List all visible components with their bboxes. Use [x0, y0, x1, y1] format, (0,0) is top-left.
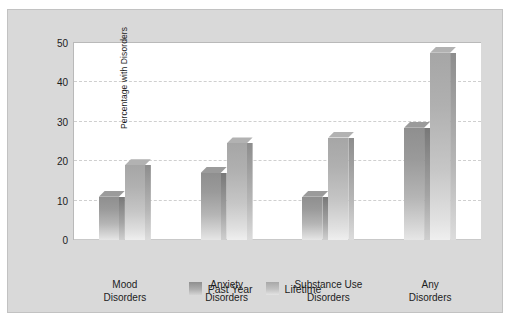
- y-tick-label: 10: [57, 195, 68, 206]
- bar-group: [302, 43, 354, 240]
- chart-figure-frame: 01020304050 MoodDisordersAnxietyDisorder…: [7, 9, 503, 313]
- bar-face: [328, 138, 348, 240]
- legend-label-past-year: Past Year: [208, 283, 253, 295]
- bar-side: [450, 53, 456, 240]
- bar-face: [227, 143, 247, 240]
- y-tick-label: 20: [57, 156, 68, 167]
- bar-past-year[interactable]: [99, 197, 119, 240]
- y-tick-label: 0: [62, 235, 68, 246]
- bar-face: [404, 128, 424, 240]
- bar-side: [145, 165, 151, 240]
- bar-lifetime[interactable]: [328, 138, 348, 240]
- bar-face: [99, 197, 119, 240]
- bar-past-year[interactable]: [302, 197, 322, 240]
- bar-face: [125, 165, 145, 240]
- legend-item-past-year[interactable]: Past Year: [189, 282, 253, 295]
- bar-lifetime[interactable]: [430, 53, 450, 240]
- bar-past-year[interactable]: [404, 128, 424, 240]
- bar-lifetime[interactable]: [125, 165, 145, 240]
- legend-label-lifetime: Lifetime: [285, 283, 322, 295]
- bar-face: [302, 197, 322, 240]
- y-axis-title: Percentage with Disorders: [119, 0, 129, 171]
- bar-face: [430, 53, 450, 240]
- lifetime-swatch-icon: [266, 282, 279, 295]
- bar-group: [404, 43, 456, 240]
- past-year-swatch-icon: [189, 282, 202, 295]
- chart-legend: Past Year Lifetime: [8, 282, 502, 295]
- y-tick-label: 40: [57, 77, 68, 88]
- bar-past-year[interactable]: [201, 173, 221, 240]
- y-tick-label: 50: [57, 38, 68, 49]
- plot-area: 01020304050 MoodDisordersAnxietyDisorder…: [73, 42, 481, 240]
- y-tick-label: 30: [57, 116, 68, 127]
- bar-group: [201, 43, 253, 240]
- bar-lifetime[interactable]: [227, 143, 247, 240]
- legend-item-lifetime[interactable]: Lifetime: [266, 282, 322, 295]
- bar-side: [247, 143, 253, 240]
- bar-side: [348, 138, 354, 240]
- bar-face: [201, 173, 221, 240]
